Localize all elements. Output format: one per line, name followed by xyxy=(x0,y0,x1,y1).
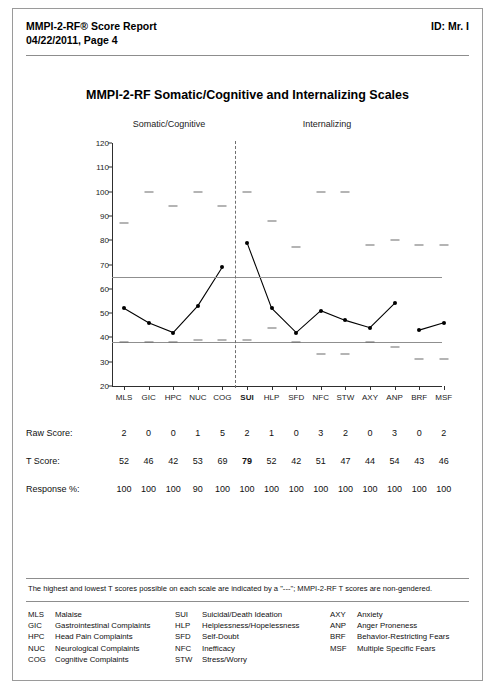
response-pct-anp: 100 xyxy=(387,484,402,494)
limit-marker xyxy=(193,339,202,340)
t-score-sui: 79 xyxy=(242,456,252,466)
raw-score-stw: 2 xyxy=(343,428,348,438)
limit-marker xyxy=(218,206,227,207)
raw-score-mls: 2 xyxy=(121,428,126,438)
x-axis-tick-mark xyxy=(321,386,322,390)
scale-label-mls: MLS xyxy=(116,393,132,402)
abbreviation-name: Self-Doubt xyxy=(202,631,239,642)
t-score-line xyxy=(118,143,442,386)
data-point xyxy=(196,304,200,308)
group-divider xyxy=(235,141,236,388)
raw-score-nuc: 1 xyxy=(195,428,200,438)
limit-marker xyxy=(316,191,325,192)
raw-score-hpc: 0 xyxy=(171,428,176,438)
report-title: MMPI-2-RF® Score Report 04/22/2011, Page… xyxy=(26,20,157,47)
client-id: ID: Mr. I xyxy=(431,20,469,34)
t-score-anp: 54 xyxy=(390,456,400,466)
abbreviation-name: Helplessness/Hopelessness xyxy=(202,620,300,631)
group-label-somatic-cognitive: Somatic/Cognitive xyxy=(104,119,234,129)
x-axis-tick-mark xyxy=(345,386,346,390)
t-score-stw: 47 xyxy=(340,456,350,466)
raw-score-axy: 0 xyxy=(367,428,372,438)
abbreviation-name: Stress/Worry xyxy=(202,654,247,665)
limit-marker xyxy=(390,240,399,241)
scale-label-hpc: HPC xyxy=(165,393,182,402)
abbreviation-code: AXY xyxy=(330,609,357,620)
response-pct-row-label: Response %: xyxy=(26,484,80,494)
abbreviation-name: Gastrointestinal Complaints xyxy=(55,620,150,631)
x-axis-tick-mark xyxy=(149,386,150,390)
footnote-divider-bottom xyxy=(26,601,469,602)
limit-marker xyxy=(120,223,129,224)
y-axis-tick-mark xyxy=(108,337,112,338)
raw-score-anp: 3 xyxy=(392,428,397,438)
x-axis-tick-mark xyxy=(370,386,371,390)
response-pct-brf: 100 xyxy=(412,484,427,494)
scale-label-msf: MSF xyxy=(435,393,452,402)
t-score-hpc: 42 xyxy=(168,456,178,466)
abbreviation-code: SUI xyxy=(175,609,202,620)
x-axis-tick-mark xyxy=(296,386,297,390)
data-point xyxy=(393,301,397,305)
reference-line-38 xyxy=(112,342,442,343)
data-point xyxy=(147,321,151,325)
response-pct-hlp: 100 xyxy=(264,484,279,494)
abbreviation-code: NUC xyxy=(28,643,55,654)
limit-marker xyxy=(415,359,424,360)
abbreviation-key-column-2: SUISuicidal/Death IdeationHLPHelplessnes… xyxy=(175,609,300,665)
abbreviation-name: Multiple Specific Fears xyxy=(357,643,435,654)
scale-label-sui: SUI xyxy=(240,393,253,402)
abbreviation-entry: MLSMalaise xyxy=(28,609,150,620)
t-score-gic: 46 xyxy=(144,456,154,466)
response-pct-nfc: 100 xyxy=(313,484,328,494)
limit-marker xyxy=(390,347,399,348)
x-axis-tick-mark xyxy=(444,386,445,390)
group-label-internalizing: Internalizing xyxy=(252,119,402,129)
limit-marker xyxy=(366,245,375,246)
t-score-row-label: T Score: xyxy=(26,456,60,466)
abbreviation-code: NFC xyxy=(175,643,202,654)
abbreviation-entry: GICGastrointestinal Complaints xyxy=(28,620,150,631)
abbreviation-name: Malaise xyxy=(55,609,82,620)
reference-line-65 xyxy=(112,277,442,278)
scale-label-stw: STW xyxy=(337,393,355,402)
x-axis-tick-mark xyxy=(222,386,223,390)
abbreviation-code: COG xyxy=(28,654,55,665)
x-axis-tick-mark xyxy=(395,386,396,390)
abbreviation-code: BRF xyxy=(330,631,357,642)
abbreviation-name: Head Pain Complaints xyxy=(55,631,133,642)
limit-marker xyxy=(144,191,153,192)
raw-score-msf: 2 xyxy=(441,428,446,438)
response-pct-msf: 100 xyxy=(436,484,451,494)
x-axis-tick-mark xyxy=(124,386,125,390)
y-axis-tick-mark xyxy=(108,288,112,289)
limit-marker xyxy=(316,354,325,355)
limit-marker xyxy=(267,220,276,221)
limit-marker xyxy=(366,342,375,343)
limit-marker xyxy=(439,359,448,360)
data-point xyxy=(171,331,175,335)
abbreviation-key-column-3: AXYAnxietyANPAnger PronenessBRFBehavior-… xyxy=(330,609,449,654)
y-axis-tick-mark xyxy=(108,264,112,265)
abbreviation-code: MSF xyxy=(330,643,357,654)
limit-marker xyxy=(439,245,448,246)
abbreviation-entry: AXYAnxiety xyxy=(330,609,449,620)
scale-label-brf: BRF xyxy=(411,393,427,402)
footnote-divider-top xyxy=(26,578,469,579)
abbreviation-code: HLP xyxy=(175,620,202,631)
response-pct-hpc: 100 xyxy=(166,484,181,494)
raw-score-cog: 5 xyxy=(220,428,225,438)
t-score-msf: 46 xyxy=(439,456,449,466)
abbreviation-name: Behavior-Restricting Fears xyxy=(357,631,449,642)
t-score-nfc: 51 xyxy=(316,456,326,466)
abbreviation-name: Inefficacy xyxy=(202,643,235,654)
abbreviation-entry: HLPHelplessness/Hopelessness xyxy=(175,620,300,631)
limit-marker xyxy=(193,191,202,192)
limit-marker xyxy=(169,342,178,343)
raw-score-sui: 2 xyxy=(244,428,249,438)
abbreviation-name: Neurological Complaints xyxy=(55,643,140,654)
x-axis-tick-mark xyxy=(173,386,174,390)
scale-label-gic: GIC xyxy=(141,393,155,402)
data-point xyxy=(343,318,347,322)
response-pct-stw: 100 xyxy=(338,484,353,494)
